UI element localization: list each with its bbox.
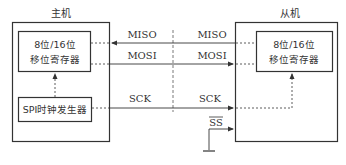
miso-label-right: MISO [197,29,226,40]
slave-shift-register-line2: 移位寄存器 [269,54,319,65]
slave-sck-internal [236,74,292,108]
master-shift-register-line2: 移位寄存器 [30,54,80,65]
mosi-label-left: MOSI [127,50,156,61]
slave-title: 从机 [280,7,300,19]
master-clock-generator-label: SPI时钟发生器 [23,104,88,115]
master-title: 主机 [51,7,71,19]
master-shift-register-line1: 8位/16位 [34,39,75,50]
miso-label-left: MISO [127,29,156,40]
slave-shift-register-line1: 8位/16位 [273,39,314,50]
slave-shift-register [257,32,333,72]
spi-master-slave-diagram: 主机 8位/16位 移位寄存器 SPI时钟发生器 从机 8位/16位 移位寄存器… [0,0,346,165]
ss-label: SS [209,117,223,128]
master-shift-register [19,32,91,72]
ss-line [209,129,233,150]
sck-label-right: SCK [199,93,222,104]
sck-label-left: SCK [129,93,152,104]
mosi-label-right: MOSI [197,50,226,61]
